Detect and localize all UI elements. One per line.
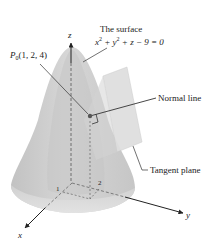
tangent-plane-label: Tangent plane [150, 165, 201, 175]
surface-label-title: The surface [100, 24, 142, 34]
point-p0 [88, 114, 92, 118]
x-tick-label: 1 [56, 185, 60, 193]
y-tick-label: 2 [98, 179, 102, 187]
normal-line-label: Normal line [158, 93, 201, 103]
paraboloid-diagram: z x y 1 2 The surface x2 + y2 + z − 9 = … [0, 0, 218, 252]
z-axis-label: z [67, 30, 72, 40]
figure-canvas: z x y 1 2 The surface x2 + y2 + z − 9 = … [0, 0, 218, 252]
p0-label: P0(1, 2, 4) [9, 50, 47, 61]
x-axis-label: x [17, 230, 22, 240]
surface-equation: x2 + y2 + z − 9 = 0 [94, 36, 164, 47]
y-axis-label: y [185, 210, 190, 220]
